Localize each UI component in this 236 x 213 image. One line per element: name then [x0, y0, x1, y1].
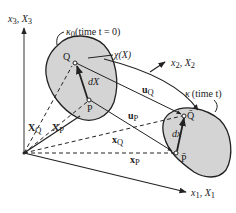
vector-xQ-label: xQ — [112, 134, 123, 147]
point-Q-label: Q̄ — [187, 110, 195, 121]
x2-axis-label: x2, X2 — [170, 57, 195, 70]
vector-uP-label: uP — [128, 110, 139, 123]
vector-xQ — [24, 116, 182, 153]
x3-axis-label: x3, X3 — [7, 13, 32, 26]
point-Q — [182, 114, 186, 118]
x1-axis — [24, 153, 186, 192]
vector-XQ-label: XQ — [28, 122, 41, 135]
vector-uP — [90, 100, 172, 151]
x1-axis-label: x1, X1 — [190, 187, 215, 200]
x2-axis — [150, 62, 165, 72]
vector-uQ-label: uQ — [142, 84, 154, 97]
point-P-label: P̄ — [181, 153, 187, 164]
current-config-label: κ(time t) — [185, 88, 222, 100]
point-Q0 — [73, 61, 77, 65]
point-P0-label: P — [87, 103, 93, 114]
mapping-label: χ(X) — [113, 49, 132, 61]
point-P — [174, 151, 178, 155]
reference-config-label: κ0(time t = 0) — [66, 26, 120, 39]
point-P0 — [87, 98, 91, 102]
element-dX-label: dX — [88, 76, 100, 87]
origin — [23, 152, 26, 155]
element-dx-label: dx — [172, 128, 182, 139]
deformation-diagram: x3, X3 x2, X2 x1, X1 κ0(time t = 0) κ(ti… — [0, 0, 236, 213]
kappa-leader — [214, 100, 217, 112]
point-Q0-label: Q — [63, 51, 71, 62]
current-body — [163, 108, 231, 177]
vector-xP-label: xP — [130, 154, 140, 167]
